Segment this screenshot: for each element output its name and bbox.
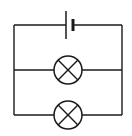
lamp-icon (54, 56, 82, 84)
lamp-icon (54, 101, 82, 129)
circuit-diagram (0, 0, 132, 136)
